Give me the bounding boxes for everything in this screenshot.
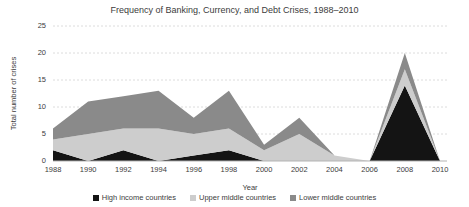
plot-area <box>0 0 469 207</box>
legend-item-upper-middle-countries: Upper middle countries <box>190 193 276 202</box>
x-tick-label-1994: 1994 <box>144 166 174 174</box>
x-axis-title: Year <box>53 183 447 192</box>
legend-item-high-income-countries: High income countries <box>93 193 176 202</box>
legend: High income countriesUpper middle countr… <box>0 193 469 202</box>
legend-swatch-upper-middle-countries <box>190 195 196 201</box>
y-tick-label-25: 25 <box>26 22 46 30</box>
x-tick-label-1988: 1988 <box>38 166 68 174</box>
legend-swatch-high-income-countries <box>93 195 99 201</box>
legend-swatch-lower-middle-countries <box>290 195 296 201</box>
x-tick-label-2002: 2002 <box>284 166 314 174</box>
x-tick-label-2000: 2000 <box>249 166 279 174</box>
legend-item-lower-middle-countries: Lower middle countries <box>290 193 376 202</box>
y-tick-label-15: 15 <box>26 76 46 84</box>
x-tick-label-1998: 1998 <box>214 166 244 174</box>
x-tick-label-2004: 2004 <box>319 166 349 174</box>
x-tick-label-1992: 1992 <box>108 166 138 174</box>
legend-label-upper-middle-countries: Upper middle countries <box>199 193 276 202</box>
x-tick-label-2008: 2008 <box>390 166 420 174</box>
y-tick-label-20: 20 <box>26 49 46 57</box>
y-tick-label-0: 0 <box>26 157 46 165</box>
y-tick-label-10: 10 <box>26 103 46 111</box>
legend-label-lower-middle-countries: Lower middle countries <box>299 193 376 202</box>
x-tick-label-2010: 2010 <box>425 166 455 174</box>
x-tick-label-1990: 1990 <box>73 166 103 174</box>
stacked-area-chart-figure: Frequency of Banking, Currency, and Debt… <box>0 0 469 207</box>
x-tick-label-1996: 1996 <box>179 166 209 174</box>
y-tick-label-5: 5 <box>26 130 46 138</box>
legend-label-high-income-countries: High income countries <box>102 193 176 202</box>
x-tick-label-2006: 2006 <box>355 166 385 174</box>
